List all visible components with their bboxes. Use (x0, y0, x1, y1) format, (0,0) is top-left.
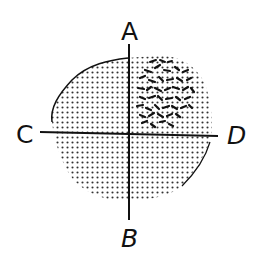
label-b: B (121, 226, 138, 251)
label-d: D (227, 123, 246, 148)
label-c: C (16, 122, 33, 147)
label-a: A (121, 19, 138, 44)
diagram: A B C D (0, 0, 262, 264)
